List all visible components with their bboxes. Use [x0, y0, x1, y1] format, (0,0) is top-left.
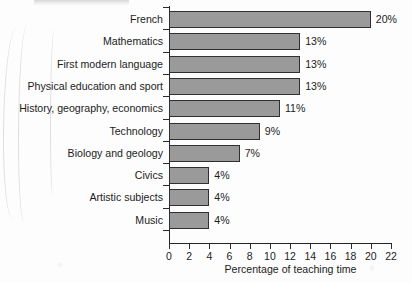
x-axis-tick: [209, 243, 210, 249]
bar: [169, 189, 209, 206]
y-axis-tick: [163, 74, 169, 75]
y-axis-tick: [163, 52, 169, 53]
x-axis-tick: [189, 243, 190, 249]
bar-value-label: 13%: [305, 33, 326, 50]
category-label: Physical education and sport: [0, 78, 163, 95]
y-axis-tick: [163, 96, 169, 97]
x-axis-tick-label: 6: [227, 250, 233, 262]
bar-value-label: 4%: [214, 212, 229, 229]
x-axis-tick: [250, 243, 251, 249]
x-axis-tick: [330, 243, 331, 249]
bar: [169, 123, 260, 140]
y-axis-tick: [163, 141, 169, 142]
category-label: Artistic subjects: [0, 189, 163, 206]
bar: [169, 145, 240, 162]
bar-value-label: 20%: [376, 11, 397, 28]
bar: [169, 33, 300, 50]
x-axis-tick: [290, 243, 291, 249]
x-axis-tick-label: 20: [365, 250, 377, 262]
category-label: French: [0, 11, 163, 28]
category-label: First modern language: [0, 56, 163, 73]
bar: [169, 56, 300, 73]
x-axis-tick-label: 12: [284, 250, 296, 262]
y-axis-tick: [163, 163, 169, 164]
x-axis-tick-label: 16: [325, 250, 337, 262]
x-axis-tick: [230, 243, 231, 249]
y-axis-tick: [163, 230, 169, 231]
bar-value-label: 4%: [214, 189, 229, 206]
category-label: Biology and geology: [0, 145, 163, 162]
scan-smudge-artifact: [34, 0, 129, 6]
bar: [169, 78, 300, 95]
bar-value-label: 9%: [265, 123, 280, 140]
y-axis-tick: [163, 185, 169, 186]
category-label: Music: [0, 212, 163, 229]
bar-value-label: 13%: [305, 56, 326, 73]
x-axis-tick-label: 22: [385, 250, 397, 262]
y-axis-tick: [163, 119, 169, 120]
y-axis-tick: [163, 208, 169, 209]
x-axis-title: Percentage of teaching time: [169, 263, 412, 275]
bar-chart: FrenchMathematicsFirst modern languagePh…: [0, 0, 412, 283]
x-axis-line: [169, 243, 391, 244]
bar-value-label: 13%: [305, 78, 326, 95]
bar: [169, 212, 209, 229]
x-axis-tick-label: 8: [247, 250, 253, 262]
x-axis-tick-label: 2: [186, 250, 192, 262]
category-label: Civics: [0, 167, 163, 184]
plot-area: Percentage of teaching time 20%13%13%13%…: [169, 0, 412, 283]
x-axis-tick: [169, 243, 170, 249]
bar: [169, 167, 209, 184]
bar-value-label: 11%: [285, 100, 305, 117]
bar-value-label: 7%: [245, 145, 260, 162]
bar-value-label: 4%: [214, 167, 229, 184]
x-axis-tick: [371, 243, 372, 249]
x-axis-tick: [391, 243, 392, 249]
x-axis-tick-label: 14: [304, 250, 316, 262]
y-axis-tick: [163, 7, 169, 8]
x-axis-tick: [351, 243, 352, 249]
category-label: Technology: [0, 123, 163, 140]
x-axis-tick-label: 18: [345, 250, 357, 262]
x-axis-tick-label: 4: [206, 250, 212, 262]
bar: [169, 100, 280, 117]
x-axis-tick: [310, 243, 311, 249]
category-label: History, geography, economics: [0, 100, 163, 117]
x-axis-tick-label: 0: [166, 250, 172, 262]
x-axis-tick: [270, 243, 271, 249]
category-label: Mathematics: [0, 33, 163, 50]
y-axis-tick: [163, 29, 169, 30]
bar: [169, 11, 371, 28]
x-axis-tick-label: 10: [264, 250, 276, 262]
